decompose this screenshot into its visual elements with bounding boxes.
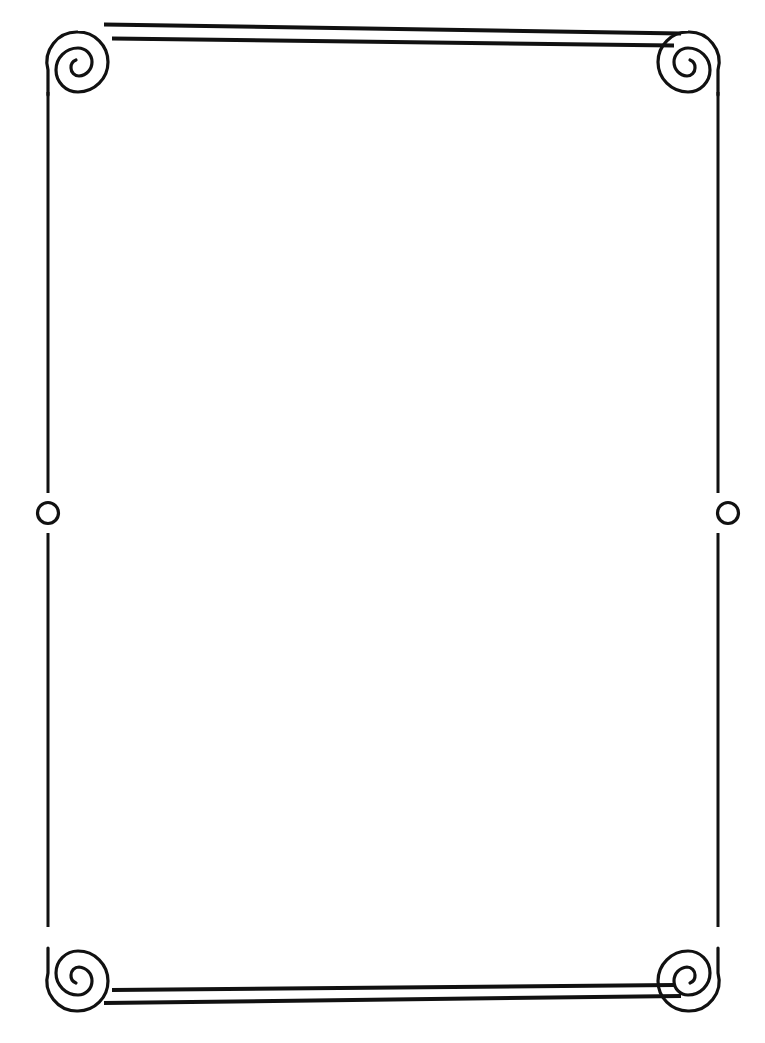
top-inner-rule (112, 37, 674, 48)
bottom-right-spiral-ornament (658, 948, 719, 1011)
top-right-spiral-ornament (658, 32, 719, 95)
top-outer-rule (104, 23, 681, 36)
bottom-right-spiral-group (658, 948, 719, 1011)
border-frame-canvas (0, 0, 765, 1043)
decorative-frame-graphic (0, 0, 765, 1043)
right-circle-ornament (718, 503, 739, 524)
top-right-spiral-group (658, 32, 719, 95)
left-circle-ornament (38, 503, 59, 524)
bottom-outer-rule (104, 994, 681, 1005)
bottom-inner-rule (112, 983, 674, 992)
bottom-left-spiral-group (47, 948, 108, 1011)
bottom-left-spiral-ornament (47, 948, 108, 1011)
top-left-spiral-ornament (47, 32, 108, 95)
